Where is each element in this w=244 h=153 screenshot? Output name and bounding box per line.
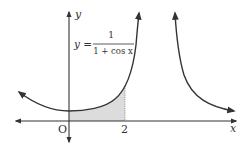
- curve-right-branch: [175, 13, 234, 111]
- formula-denominator: 1 + cos x: [93, 46, 133, 56]
- y-axis-label: y: [74, 8, 82, 21]
- function-graph: y x O 2 y = 1 1 + cos x: [0, 0, 244, 153]
- tick-label-2: 2: [121, 123, 128, 136]
- origin-label: O: [58, 123, 67, 136]
- formula-numerator: 1: [108, 30, 114, 40]
- shaded-area: [69, 86, 125, 121]
- formula-lhs: y =: [73, 38, 92, 50]
- x-axis-label: x: [230, 122, 237, 135]
